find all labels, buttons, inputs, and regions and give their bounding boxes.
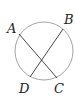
label-b: B xyxy=(63,12,74,27)
label-d: D xyxy=(18,81,30,96)
label-c: C xyxy=(54,81,64,96)
circle xyxy=(15,22,73,80)
label-a: A xyxy=(6,21,16,36)
chord-ac xyxy=(19,34,57,78)
circle-diagram: A B D C xyxy=(0,0,75,97)
